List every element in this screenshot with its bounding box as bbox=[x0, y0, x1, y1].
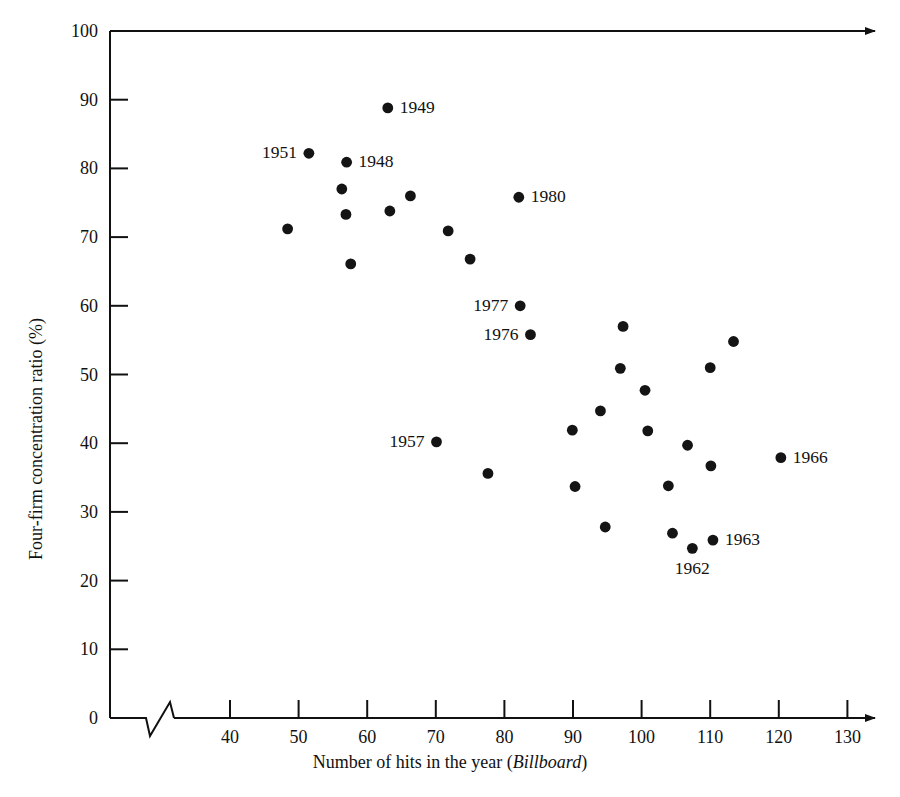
data-point bbox=[282, 223, 293, 234]
data-point bbox=[405, 190, 416, 201]
data-point-label: 1957 bbox=[389, 433, 424, 451]
data-point bbox=[615, 363, 626, 374]
data-point bbox=[642, 425, 653, 436]
x-tick-label: 70 bbox=[427, 728, 445, 746]
x-tick-label: 120 bbox=[765, 728, 792, 746]
data-point-label: 1966 bbox=[793, 449, 828, 467]
data-point bbox=[345, 258, 356, 269]
data-point bbox=[595, 406, 606, 417]
y-tick-label: 80 bbox=[40, 159, 98, 177]
data-point bbox=[570, 481, 581, 492]
y-tick-label: 50 bbox=[40, 366, 98, 384]
plot-canvas bbox=[0, 0, 900, 797]
data-point-label: 1951 bbox=[262, 145, 297, 163]
data-point bbox=[775, 452, 786, 463]
data-point-label: 1948 bbox=[359, 153, 394, 171]
data-point bbox=[667, 528, 678, 539]
y-tick-label: 90 bbox=[40, 91, 98, 109]
data-point bbox=[705, 460, 716, 471]
y-tick-label: 30 bbox=[40, 503, 98, 521]
y-tick-label: 60 bbox=[40, 297, 98, 315]
data-point bbox=[705, 362, 716, 373]
data-point bbox=[384, 206, 395, 217]
data-point bbox=[443, 226, 454, 237]
x-tick-label: 60 bbox=[358, 728, 376, 746]
x-axis-break-zigzag bbox=[110, 702, 174, 736]
data-point bbox=[618, 321, 629, 332]
data-point-label: 1949 bbox=[400, 99, 435, 117]
y-axis-title: Four-firm concentration ratio (%) bbox=[26, 318, 47, 560]
data-point bbox=[515, 300, 526, 311]
data-point bbox=[303, 148, 314, 159]
data-point-label: 1963 bbox=[725, 531, 760, 549]
data-point bbox=[341, 157, 352, 168]
data-point bbox=[708, 535, 719, 546]
data-point-label: 1962 bbox=[675, 560, 710, 578]
x-tick-label: 80 bbox=[495, 728, 513, 746]
x-tick-label: 40 bbox=[221, 728, 239, 746]
data-point bbox=[567, 425, 578, 436]
x-axis-title: Number of hits in the year (Billboard) bbox=[0, 752, 900, 773]
data-point bbox=[728, 336, 739, 347]
data-point bbox=[600, 522, 611, 533]
x-axis-ticks bbox=[230, 700, 847, 718]
y-tick-label: 40 bbox=[40, 434, 98, 452]
data-point bbox=[513, 192, 524, 203]
data-point-label: 1980 bbox=[531, 189, 566, 207]
data-point bbox=[483, 468, 494, 479]
x-tick-label: 90 bbox=[564, 728, 582, 746]
scatter-chart-figure: 0102030405060708090100 40506070809010011… bbox=[0, 0, 900, 797]
x-tick-label: 100 bbox=[628, 728, 655, 746]
data-point bbox=[663, 480, 674, 491]
data-point bbox=[682, 440, 693, 451]
y-tick-label: 20 bbox=[40, 572, 98, 590]
y-tick-label: 100 bbox=[40, 22, 98, 40]
y-tick-label: 10 bbox=[40, 640, 98, 658]
data-point-label: 1977 bbox=[473, 297, 508, 315]
data-point bbox=[382, 103, 393, 114]
data-point bbox=[640, 385, 651, 396]
y-axis-ticks bbox=[110, 100, 128, 650]
data-point bbox=[336, 184, 347, 195]
data-point bbox=[687, 543, 698, 554]
data-point bbox=[525, 329, 536, 340]
x-tick-label: 130 bbox=[834, 728, 861, 746]
y-tick-label: 0 bbox=[40, 709, 98, 727]
x-tick-label: 50 bbox=[290, 728, 308, 746]
y-tick-label: 70 bbox=[40, 228, 98, 246]
x-tick-label: 110 bbox=[697, 728, 723, 746]
data-point bbox=[465, 254, 476, 265]
data-point bbox=[431, 436, 442, 447]
data-point-label: 1976 bbox=[483, 326, 518, 344]
data-point bbox=[341, 209, 352, 220]
